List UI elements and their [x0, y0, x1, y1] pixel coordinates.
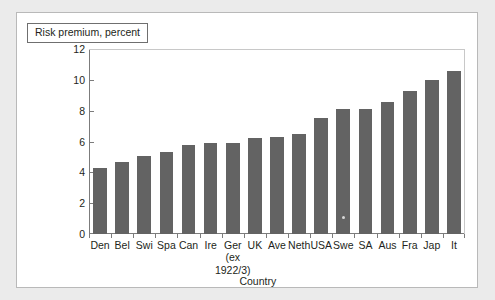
y-axis-tick-mark — [89, 80, 94, 81]
x-axis-tick-mark — [89, 234, 90, 238]
bar-fra[interactable] — [403, 91, 417, 234]
y-axis-tick-label: 4 — [65, 167, 85, 177]
x-axis-tick-mark — [222, 234, 223, 238]
bar-den[interactable] — [93, 168, 107, 234]
x-axis-tick-mark — [332, 234, 333, 238]
x-axis-label-spa: Spa — [155, 239, 177, 251]
bar-uk[interactable] — [248, 138, 262, 234]
x-axis-tick-mark — [421, 234, 422, 238]
x-axis-tick-mark — [354, 234, 355, 238]
x-axis-tick-mark — [377, 234, 378, 238]
bar-aus[interactable] — [381, 102, 395, 234]
plot-frame-right — [464, 49, 465, 234]
x-axis-tick-mark — [399, 234, 400, 238]
x-axis-tick-mark — [443, 234, 444, 238]
x-axis-label-uk: UK — [244, 239, 266, 251]
x-axis-label-swi: Swi — [133, 239, 155, 251]
bar-jap[interactable] — [425, 80, 439, 234]
y-axis-tick-label: 0 — [65, 229, 85, 239]
bar-marker-speck — [342, 216, 345, 219]
x-axis-label-swe: Swe — [332, 239, 354, 251]
x-axis-label-ire: Ire — [200, 239, 222, 251]
y-axis-tick-mark — [89, 142, 94, 143]
bar-neth[interactable] — [292, 134, 306, 234]
bar-ger[interactable] — [226, 143, 240, 234]
bar-can[interactable] — [182, 145, 196, 234]
x-axis-label-den: Den — [89, 239, 111, 251]
bar-spa[interactable] — [160, 152, 174, 234]
x-axis-tick-mark — [310, 234, 311, 238]
chart-title-box: Risk premium, percent — [27, 23, 148, 43]
x-axis-label-can: Can — [177, 239, 199, 251]
x-axis-tick-mark — [464, 234, 465, 238]
x-axis-tick-mark — [177, 234, 178, 238]
y-axis-tick-label: 6 — [65, 137, 85, 147]
x-axis-tick-mark — [155, 234, 156, 238]
x-axis-label-ger: Ger — [222, 239, 244, 251]
figure-panel: Risk premium, percent 024681012 DenBelSw… — [16, 12, 478, 288]
bar-swi[interactable] — [137, 156, 151, 234]
x-axis-label-fra: Fra — [399, 239, 421, 251]
x-axis-tick-mark — [288, 234, 289, 238]
bar-swe[interactable] — [336, 109, 350, 234]
x-axis-label-it: It — [443, 239, 465, 251]
y-axis-tick-label: 8 — [65, 106, 85, 116]
x-axis-sublabel-ger-0: (ex — [211, 251, 255, 263]
x-axis-title: Country — [239, 275, 276, 287]
bar-usa[interactable] — [314, 118, 328, 234]
plot-frame-top — [89, 49, 465, 50]
x-axis-label-neth: Neth — [288, 239, 310, 251]
y-axis-tick-label: 12 — [65, 44, 85, 54]
bar-ire[interactable] — [204, 143, 218, 234]
bar-it[interactable] — [447, 71, 461, 234]
y-axis-tick-label: 10 — [65, 75, 85, 85]
x-axis-label-bel: Bel — [111, 239, 133, 251]
x-axis-tick-mark — [133, 234, 134, 238]
chart-title: Risk premium, percent — [35, 26, 140, 38]
x-axis-label-sa: SA — [354, 239, 376, 251]
bar-bel[interactable] — [115, 162, 129, 234]
x-axis-tick-mark — [200, 234, 201, 238]
bar-sa[interactable] — [359, 109, 373, 234]
x-axis-tick-mark — [111, 234, 112, 238]
x-axis-tick-mark — [266, 234, 267, 238]
y-axis-tick-mark — [89, 111, 94, 112]
plot-area: 024681012 — [89, 49, 465, 234]
x-axis-tick-mark — [244, 234, 245, 238]
x-axis-label-ave: Ave — [266, 239, 288, 251]
x-axis-label-jap: Jap — [421, 239, 443, 251]
bar-ave[interactable] — [270, 137, 284, 234]
y-axis-tick-label: 2 — [65, 198, 85, 208]
x-axis-label-usa: USA — [310, 239, 332, 251]
x-axis-label-aus: Aus — [377, 239, 399, 251]
